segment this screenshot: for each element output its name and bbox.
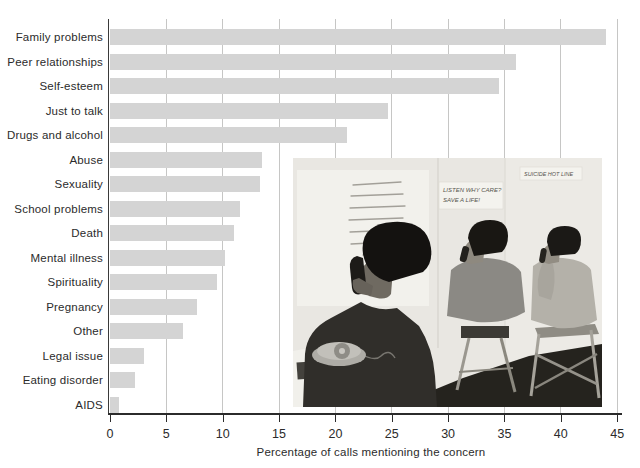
x-tick-label: 5 xyxy=(149,427,183,441)
listen-sign: LISTEN WHY CARE? SAVE A LIFE! xyxy=(439,182,503,209)
bar-drugs-and-alcohol xyxy=(110,127,347,143)
category-label: Family problems xyxy=(16,30,103,44)
bar-spirituality xyxy=(110,274,217,290)
bar-legal-issue xyxy=(110,348,144,364)
hotline-sign-text: SUICIDE HOT LINE xyxy=(524,171,574,177)
bar-sexuality xyxy=(110,176,260,192)
bar-school-problems xyxy=(110,201,240,217)
category-label: Just to talk xyxy=(46,104,103,118)
x-tick-label: 20 xyxy=(318,427,352,441)
x-tick-label: 30 xyxy=(431,427,465,441)
category-label: Drugs and alcohol xyxy=(7,128,103,142)
category-label: Pregnancy xyxy=(46,300,103,314)
x-tick-25 xyxy=(392,415,393,422)
x-tick-label: 10 xyxy=(206,427,240,441)
x-tick-label: 35 xyxy=(487,427,521,441)
x-tick-30 xyxy=(448,415,449,422)
bar-eating-disorder xyxy=(110,372,135,388)
category-label: Mental illness xyxy=(31,251,103,265)
bar-aids xyxy=(110,397,119,413)
listen-sign-line1: LISTEN WHY CARE? xyxy=(443,187,502,193)
x-axis-line xyxy=(108,413,622,415)
x-tick-35 xyxy=(504,415,505,422)
x-tick-0 xyxy=(110,415,111,422)
category-label: Peer relationships xyxy=(7,55,103,69)
x-tick-label: 40 xyxy=(544,427,578,441)
x-tick-40 xyxy=(561,415,562,422)
bar-peer-relationships xyxy=(110,54,516,70)
bar-abuse xyxy=(110,152,262,168)
x-tick-10 xyxy=(223,415,224,422)
hotline-photo: LISTEN WHY CARE? SAVE A LIFE! SUICIDE HO… xyxy=(293,158,602,407)
listen-sign-line2: SAVE A LIFE! xyxy=(443,197,480,203)
category-label: Abuse xyxy=(69,153,103,167)
y-axis-line xyxy=(108,19,109,413)
x-tick-label: 45 xyxy=(600,427,634,441)
bar-mental-illness xyxy=(110,250,225,266)
hotline-photo-illustration: LISTEN WHY CARE? SAVE A LIFE! SUICIDE HO… xyxy=(293,158,602,407)
figure-call-concerns-chart: Family problemsPeer relationshipsSelf-es… xyxy=(0,0,640,468)
category-label: Sexuality xyxy=(55,177,103,191)
category-label: Legal issue xyxy=(43,349,103,363)
category-label: School problems xyxy=(14,202,103,216)
category-label: Death xyxy=(71,226,103,240)
volunteer-middle-hair xyxy=(468,220,508,256)
category-label: Eating disorder xyxy=(23,373,103,387)
x-tick-20 xyxy=(335,415,336,422)
x-tick-5 xyxy=(166,415,167,422)
category-label: AIDS xyxy=(75,398,103,412)
x-tick-45 xyxy=(617,415,618,422)
x-tick-label: 15 xyxy=(262,427,296,441)
category-label: Self-esteem xyxy=(39,79,103,93)
x-tick-label: 0 xyxy=(93,427,127,441)
category-label: Other xyxy=(73,324,103,338)
bar-pregnancy xyxy=(110,299,197,315)
x-tick-15 xyxy=(279,415,280,422)
bar-just-to-talk xyxy=(110,103,388,119)
x-axis-title: Percentage of calls mentioning the conce… xyxy=(171,446,571,458)
bar-death xyxy=(110,225,234,241)
bar-self-esteem xyxy=(110,78,499,94)
gridline-45 xyxy=(617,19,618,413)
category-label: Spirituality xyxy=(48,275,103,289)
bar-other xyxy=(110,323,183,339)
hotline-sign: SUICIDE HOT LINE xyxy=(520,167,582,180)
bar-family-problems xyxy=(110,29,606,45)
volunteer-right-hair xyxy=(547,226,581,256)
x-tick-label: 25 xyxy=(375,427,409,441)
